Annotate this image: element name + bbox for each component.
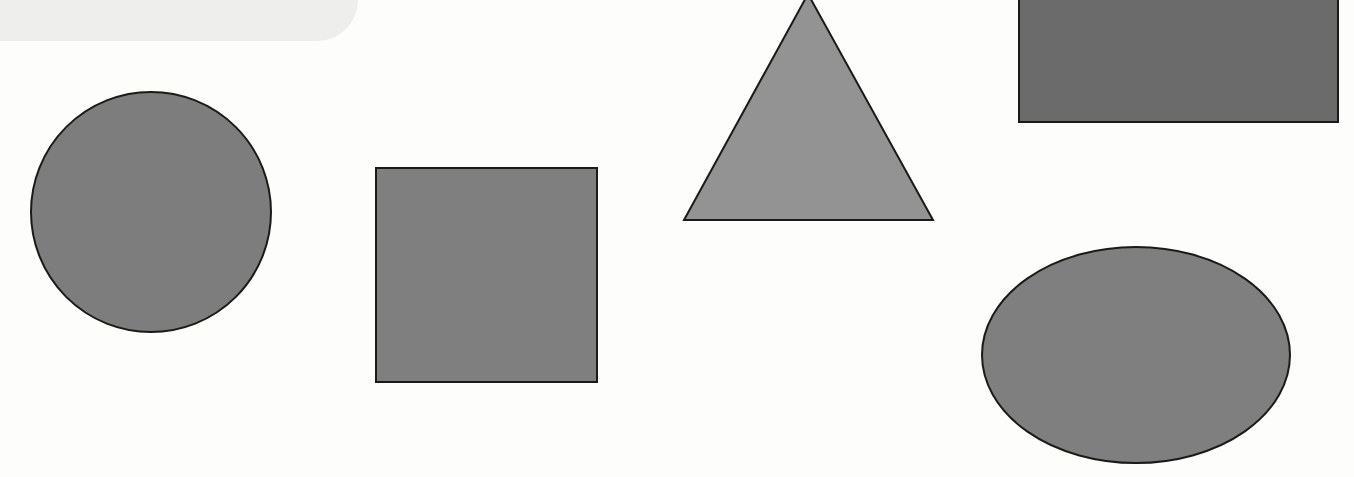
square-shape <box>376 168 597 382</box>
circle-shape <box>31 92 271 332</box>
ellipse-shape <box>982 247 1290 463</box>
rectangle-shape <box>1019 0 1338 122</box>
shapes-canvas <box>0 0 1354 477</box>
triangle-shape <box>684 0 933 220</box>
